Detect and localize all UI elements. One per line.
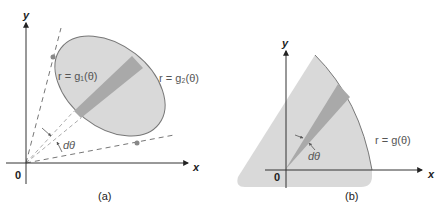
- outer-curve-label: r = g₂(θ): [159, 72, 199, 84]
- lower-tangent-ray: [26, 135, 174, 163]
- dtheta-arrow-right: [57, 142, 62, 152]
- dtheta-label: dθ: [63, 139, 75, 151]
- caption-a: (a): [98, 190, 111, 202]
- inner-curve-label: r = g₁(θ): [58, 70, 97, 82]
- panel-b: y x 0 r = g(θ) dθ (b): [237, 37, 435, 202]
- x-axis-label: x: [427, 168, 435, 180]
- tangent-point-lower: [135, 141, 140, 146]
- panel-a: y x 0 r = g₁(θ) r = g₂(θ) dθ (a): [6, 9, 200, 202]
- sector-region: [237, 55, 372, 187]
- y-axis-label: y: [22, 9, 30, 21]
- strip-ray-1: [26, 111, 74, 163]
- origin-label: 0: [15, 169, 21, 181]
- x-axis-label: x: [192, 161, 200, 173]
- tangent-point-upper: [51, 55, 56, 60]
- curve-label: r = g(θ): [375, 134, 411, 146]
- origin-label: 0: [274, 171, 280, 183]
- caption-b: (b): [345, 190, 358, 202]
- polar-area-diagram: y x 0 r = g₁(θ) r = g₂(θ) dθ (a) y x 0 r…: [0, 0, 441, 209]
- dtheta-arrow-left: [42, 128, 51, 136]
- upper-tangent-ray: [26, 28, 61, 163]
- dtheta-label: dθ: [308, 150, 320, 162]
- y-axis-label: y: [281, 37, 289, 49]
